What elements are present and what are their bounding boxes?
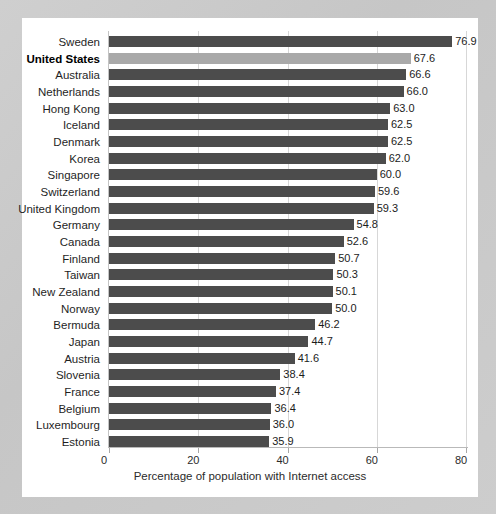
bar[interactable] (109, 86, 404, 97)
category-label: Finland (62, 253, 100, 265)
x-tick-label-20: 20 (187, 453, 199, 467)
bar-chart-plot-area: Sweden76.9United States67.6Australia66.6… (22, 18, 478, 497)
category-label: Switzerland (41, 186, 100, 198)
category-label: Sweden (58, 36, 100, 48)
bar-row[interactable]: Finland50.7 (22, 253, 478, 270)
bar-value-label: 52.6 (347, 235, 368, 247)
bar[interactable] (109, 36, 452, 47)
category-label: United Kingdom (18, 203, 100, 215)
category-label: United States (27, 53, 101, 65)
bar-row[interactable]: Luxembourg36.0 (22, 419, 478, 436)
category-label: Canada (60, 236, 100, 248)
bar-value-label: 60.0 (380, 168, 401, 180)
bar-value-label: 59.3 (377, 202, 398, 214)
bar-row[interactable]: Netherlands66.0 (22, 86, 478, 103)
bar[interactable] (109, 303, 332, 314)
bar[interactable] (109, 69, 406, 80)
bar[interactable] (109, 369, 280, 380)
bar[interactable] (109, 336, 308, 347)
bar[interactable] (109, 219, 354, 230)
bar-value-label: 36.4 (274, 402, 295, 414)
bar[interactable] (109, 103, 390, 114)
bar[interactable] (109, 119, 388, 130)
bar[interactable] (109, 236, 344, 247)
category-label: Luxembourg (36, 419, 100, 431)
category-label: Germany (53, 219, 100, 231)
bar[interactable] (109, 403, 271, 414)
category-label: New Zealand (32, 286, 100, 298)
bar-row[interactable]: Bermuda46.2 (22, 319, 478, 336)
bar-value-label: 35.9 (272, 435, 293, 447)
bar[interactable] (109, 319, 315, 330)
bar-value-label: 76.9 (455, 35, 476, 47)
bar-row[interactable]: Australia66.6 (22, 69, 478, 86)
bar-value-label: 50.7 (338, 252, 359, 264)
bar-row[interactable]: Japan44.7 (22, 336, 478, 353)
category-label: Norway (61, 303, 100, 315)
bar[interactable] (109, 386, 276, 397)
bar-row[interactable]: Canada52.6 (22, 236, 478, 253)
bar-row[interactable]: Switzerland59.6 (22, 186, 478, 203)
bar-value-label: 50.3 (336, 268, 357, 280)
category-label: Bermuda (53, 319, 100, 331)
x-tick-label-0: 0 (101, 453, 107, 467)
bar-row[interactable]: Estonia35.9 (22, 436, 478, 453)
bar-row[interactable]: Hong Kong63.0 (22, 103, 478, 120)
category-label: Denmark (53, 136, 100, 148)
bar[interactable] (109, 286, 333, 297)
bar-row[interactable]: New Zealand50.1 (22, 286, 478, 303)
category-label: Singapore (48, 169, 100, 181)
bar[interactable] (109, 419, 270, 430)
bar[interactable] (109, 136, 388, 147)
bar-value-label: 66.6 (409, 68, 430, 80)
bar-value-label: 62.5 (391, 135, 412, 147)
bar-row[interactable]: United Kingdom59.3 (22, 203, 478, 220)
bar[interactable] (109, 269, 333, 280)
bar[interactable] (109, 203, 374, 214)
bar-row[interactable]: Belgium36.4 (22, 403, 478, 420)
bar-row[interactable]: Slovenia38.4 (22, 369, 478, 386)
bar-row[interactable]: Taiwan50.3 (22, 269, 478, 286)
bar-value-label: 63.0 (393, 102, 414, 114)
figure-root: Sweden76.9United States67.6Australia66.6… (0, 0, 496, 514)
bar-value-label: 54.8 (357, 218, 378, 230)
category-label: France (64, 386, 100, 398)
bar[interactable] (109, 169, 377, 180)
bar-value-label: 67.6 (414, 52, 435, 64)
category-label: Korea (69, 153, 100, 165)
chart-card: Sweden76.9United States67.6Australia66.6… (22, 18, 478, 497)
category-label: Taiwan (64, 269, 100, 281)
category-label: Belgium (58, 403, 100, 415)
bar-row[interactable]: Denmark62.5 (22, 136, 478, 153)
bar[interactable] (109, 186, 375, 197)
bar-row[interactable]: Sweden76.9 (22, 36, 478, 53)
x-axis-title: Percentage of population with Internet a… (22, 470, 478, 482)
bar[interactable] (109, 353, 295, 364)
bar-value-label: 44.7 (311, 335, 332, 347)
category-label: Australia (55, 69, 100, 81)
bar[interactable] (109, 436, 269, 447)
bar-value-label: 50.0 (335, 302, 356, 314)
tick-mark-0 (109, 448, 110, 453)
category-label: Estonia (62, 436, 100, 448)
bar-row[interactable]: United States67.6 (22, 53, 478, 70)
bar-value-label: 62.0 (389, 152, 410, 164)
category-label: Iceland (63, 119, 100, 131)
category-label: Hong Kong (42, 103, 100, 115)
bar-value-label: 41.6 (298, 352, 319, 364)
bar-row[interactable]: Singapore60.0 (22, 169, 478, 186)
bar-row[interactable]: Korea62.0 (22, 153, 478, 170)
x-tick-label-40: 40 (276, 453, 288, 467)
bar-row[interactable]: Austria41.6 (22, 353, 478, 370)
bar-row[interactable]: France37.4 (22, 386, 478, 403)
category-label: Austria (64, 353, 100, 365)
bar-row[interactable]: Germany54.8 (22, 219, 478, 236)
bar[interactable] (109, 153, 386, 164)
bar[interactable] (109, 53, 411, 64)
bar-row[interactable]: Norway50.0 (22, 303, 478, 320)
bar-row[interactable]: Iceland62.5 (22, 119, 478, 136)
bar-value-label: 37.4 (279, 385, 300, 397)
bar-value-label: 62.5 (391, 118, 412, 130)
bar-value-label: 46.2 (318, 318, 339, 330)
bar[interactable] (109, 253, 335, 264)
